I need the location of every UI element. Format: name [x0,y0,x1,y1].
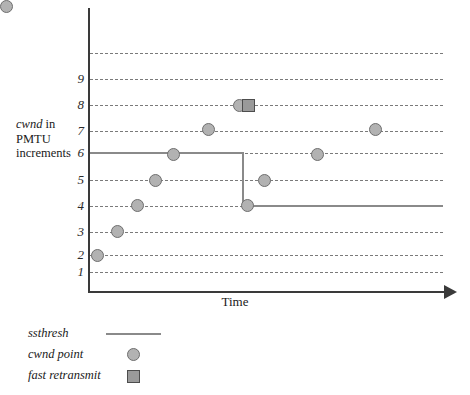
y-tick-label-4: 4 [62,199,84,212]
gridline-8 [90,105,443,106]
cwnd-point [241,199,254,212]
y-tick-label-2: 2 [62,248,84,261]
gridline-3 [90,232,443,233]
fast-retransmit-marker [242,99,255,112]
legend-label-fast-retransmit: fast retransmit [28,368,101,383]
y-tick-label-3: 3 [62,225,84,238]
legend-item-cwnd-point: cwnd point [28,346,228,367]
x-axis-title: Time [205,294,265,310]
legend-swatch-circle-icon [127,348,140,361]
y-axis-title-rest1: in [42,117,55,131]
y-tick-label-8: 8 [62,98,84,111]
y-axis-line [88,8,90,293]
cwnd-point [111,225,124,238]
y-tick-label-1: 1 [62,265,84,278]
y-axis-title-line3: increments [16,146,71,160]
y-axis-title: cwnd in PMTU increments [16,117,86,161]
x-axis-line [88,291,455,293]
legend-label-cwnd-point: cwnd point [28,347,83,362]
gridline-10 [90,53,443,54]
cwnd-point [149,174,162,187]
cwnd-point [167,148,180,161]
y-tick-label-5: 5 [62,173,84,186]
cwnd-point [0,0,13,13]
y-tick-label-9: 9 [62,72,84,85]
ssthresh-segment-high [88,152,244,154]
cwnd-point [202,123,215,136]
y-axis-title-line2: PMTU [16,132,51,146]
legend-label-ssthresh: ssthresh [28,326,69,341]
cwnd-point [369,123,382,136]
cwnd-point [311,148,324,161]
ssthresh-segment-low [242,205,443,207]
gridline-1 [90,272,443,273]
cwnd-point [258,174,271,187]
legend-item-fast-retransmit: fast retransmit [28,367,228,388]
legend-item-ssthresh: ssthresh [28,325,228,346]
legend-swatch-square-icon [127,370,140,383]
cwnd-point [131,199,144,212]
gridline-7 [90,131,443,132]
chart-legend: ssthresh cwnd point fast retransmit [28,325,228,388]
cwnd-point [91,249,104,262]
x-axis-arrowhead [444,285,457,299]
legend-swatch-line-icon [106,333,161,335]
gridline-9 [90,79,443,80]
cwnd-vs-time-chart: 9 8 7 6 5 4 3 2 1 cwnd in PMTU increment… [0,0,470,395]
gridline-2 [90,255,443,256]
y-axis-title-emphasis: cwnd [16,117,42,131]
